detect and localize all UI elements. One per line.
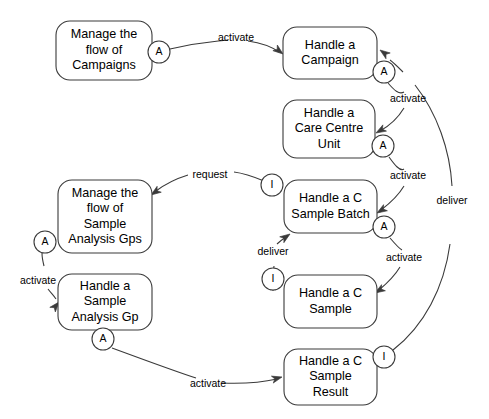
- node-label-line: Result: [313, 385, 349, 399]
- node-handle-c-sample[interactable]: Handle a CSample: [284, 275, 377, 328]
- node-label-line: Analysis Gp: [71, 310, 138, 324]
- port-label: A: [379, 139, 386, 151]
- node-label-line: Handle a: [80, 279, 130, 293]
- node-label-line: Handle a C: [299, 286, 362, 300]
- node-handle-campaign[interactable]: Handle aCampaign: [283, 27, 377, 79]
- node-label-line: Analysis Gps: [68, 232, 142, 246]
- node-handle-c-sample-result[interactable]: Handle a CSampleResult: [284, 349, 377, 405]
- port-port-sample-result-i[interactable]: I: [373, 346, 395, 368]
- node-label-line: flow of: [86, 43, 123, 57]
- edge-label: activate: [190, 377, 226, 389]
- node-manage-campaigns[interactable]: Manage theflow ofCampaigns: [56, 21, 152, 80]
- node-manage-sample-analysis-gps[interactable]: Manage theflow ofSampleAnalysis Gps: [58, 180, 152, 253]
- diagram-canvas: Manage theflow ofCampaignsHandle aCampai…: [0, 0, 489, 419]
- node-label-line: Sample: [309, 369, 352, 383]
- port-port-campaign-a[interactable]: A: [373, 61, 395, 83]
- port-label: I: [271, 178, 274, 190]
- arrowhead-icon: [271, 374, 283, 384]
- port-label: A: [380, 220, 387, 232]
- port-port-sample-batch-a[interactable]: A: [373, 216, 395, 238]
- node-label-line: Campaigns: [72, 58, 136, 72]
- node-handle-sample-analysis-gp[interactable]: Handle aSampleAnalysis Gp: [58, 274, 152, 330]
- edge-line: [380, 83, 404, 131]
- edge-line: [379, 238, 402, 290]
- port-label: A: [380, 65, 387, 77]
- port-port-sample-batch-i[interactable]: I: [261, 174, 283, 196]
- node-label-line: Sample Batch: [291, 207, 369, 221]
- diagram-svg: Manage theflow ofCampaignsHandle aCampai…: [0, 0, 489, 419]
- node-label-line: Care Centre: [295, 121, 364, 135]
- node-label-line: Sample: [84, 294, 127, 308]
- port-port-campaigns-a[interactable]: A: [148, 41, 170, 63]
- node-label-line: Unit: [318, 137, 341, 151]
- port-label: A: [99, 332, 106, 344]
- port-label: A: [41, 235, 48, 247]
- edge-label: request: [192, 168, 227, 180]
- node-label-line: Handle a C: [299, 354, 362, 368]
- edge-label: activate: [218, 31, 254, 43]
- node-label-line: Manage the: [72, 186, 139, 200]
- node-label-line: Handle a: [305, 38, 355, 52]
- port-port-care-centre-a[interactable]: A: [372, 135, 394, 157]
- edge-label: activate: [390, 169, 426, 181]
- edge-label: activate: [390, 92, 426, 104]
- edge-line: [381, 157, 404, 210]
- node-label-line: Handle a: [304, 106, 354, 120]
- node-handle-c-sample-batch[interactable]: Handle a CSample Batch: [284, 180, 377, 233]
- node-label-line: Sample: [309, 302, 352, 316]
- node-label-line: Handle a C: [299, 191, 362, 205]
- node-label-line: Campaign: [301, 53, 358, 67]
- port-label: I: [272, 272, 275, 284]
- port-port-c-sample-i[interactable]: I: [262, 268, 284, 290]
- node-handle-care-centre-unit[interactable]: Handle aCare CentreUnit: [283, 100, 375, 158]
- arrowhead-icon: [280, 231, 292, 243]
- port-port-analysis-gp-a[interactable]: A: [92, 328, 114, 350]
- port-label: A: [155, 45, 162, 57]
- node-label-line: Manage the: [71, 27, 138, 41]
- port-label: I: [383, 350, 386, 362]
- node-label-line: Sample: [84, 217, 127, 231]
- edge-label: activate: [386, 251, 422, 263]
- arrowhead-icon: [378, 47, 390, 59]
- node-label-line: flow of: [87, 201, 124, 215]
- edge-label: deliver: [258, 245, 289, 257]
- edge-edge-activate-sample-batch: [375, 157, 404, 216]
- edge-label: deliver: [437, 194, 468, 206]
- edge-label: activate: [20, 274, 56, 286]
- port-port-analysis-gps-a[interactable]: A: [34, 231, 56, 253]
- arrowhead-icon: [374, 125, 386, 136]
